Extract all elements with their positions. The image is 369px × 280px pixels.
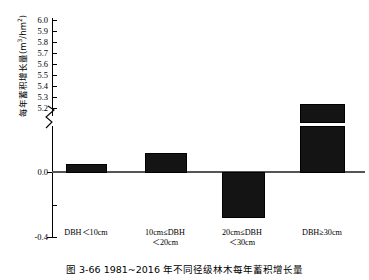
y-tick-label-5-7: 5.7 <box>22 49 48 58</box>
axis-break-icon <box>43 104 65 130</box>
x-category-label-3-line1: 20cm≤DBH <box>222 228 262 237</box>
y-tick-label--0-4: -0.4 <box>17 233 48 242</box>
y-tick-label-0-0: 0.0 <box>22 168 48 177</box>
y-tick-mark-6-0 <box>52 20 57 21</box>
bar-dbh-ge-30cm-upper[interactable] <box>300 104 345 123</box>
bar-20cm-to-30cm[interactable] <box>222 172 265 218</box>
figure-caption: 图 3-66 1981~2016 年不同径级林木每年蓄积增长量 <box>0 262 369 276</box>
x-category-label-3: 20cm≤DBH ＜30cm <box>205 228 279 248</box>
y-tick-mark-5-5 <box>52 75 57 76</box>
x-category-label-1: DBH＜10cm <box>50 228 122 238</box>
y-tick-mark-5-7 <box>52 53 57 54</box>
y-tick-mark-5-3 <box>52 97 57 98</box>
bar-dbh-lt-10cm[interactable] <box>66 164 107 173</box>
x-category-label-2-line2: ＜20cm <box>128 238 202 248</box>
y-tick-label-6-0: 6.0 <box>22 16 48 25</box>
y-tick-label-5-4: 5.4 <box>22 82 48 91</box>
y-tick-mark-5-8 <box>52 42 57 43</box>
y-tick-mark-5-9 <box>52 31 57 32</box>
x-category-label-4-line1: DBH≥30cm <box>302 228 342 237</box>
y-tick-mark-5-4 <box>52 86 57 87</box>
x-category-label-3-line2: ＜30cm <box>205 238 279 248</box>
y-tick-label-5-3: 5.3 <box>22 93 48 102</box>
x-category-label-2: 10cm≤DBH ＜20cm <box>128 228 202 248</box>
x-category-label-2-line1: 10cm≤DBH <box>145 228 185 237</box>
bar-10cm-to-20cm[interactable] <box>145 153 187 173</box>
y-axis-line-upper <box>52 18 53 116</box>
x-category-label-1-line1: DBH＜10cm <box>64 228 107 237</box>
y-tick-label-5-9: 5.9 <box>22 27 48 36</box>
y-tick-label-5-5: 5.5 <box>22 71 48 80</box>
bar-dbh-ge-30cm-lower[interactable] <box>300 126 345 173</box>
y-tick-label-5-6: 5.6 <box>22 60 48 69</box>
y-tick-mark-5-6 <box>52 64 57 65</box>
x-category-label-4: DBH≥30cm <box>285 228 359 238</box>
figure-container: 每年蓄积增长量(m3/hm2) 6.0 5.9 5.8 5.7 5.6 5.5 … <box>0 0 369 280</box>
y-axis-line-lower <box>52 126 53 238</box>
y-tick-label-5-8: 5.8 <box>22 38 48 47</box>
y-tick-mark-minor--0-2 <box>52 205 57 206</box>
